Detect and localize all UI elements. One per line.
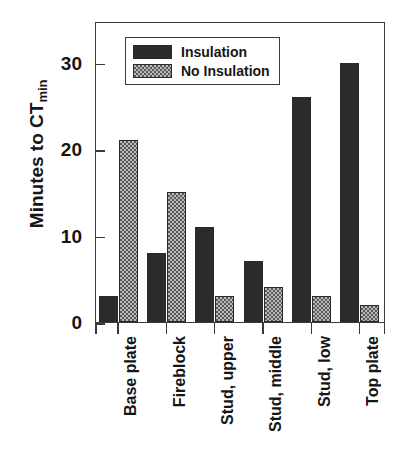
bar bbox=[215, 296, 234, 322]
x-category-label: Fireblock bbox=[172, 336, 188, 454]
plot-area: Insulation No Insulation bbox=[95, 22, 385, 323]
bar bbox=[360, 305, 379, 322]
x-tick-mark bbox=[117, 323, 119, 334]
y-tick-mark bbox=[96, 150, 105, 152]
bar bbox=[167, 192, 186, 322]
x-tick-mark-edge bbox=[95, 323, 97, 334]
x-category-label: Stud, middle bbox=[268, 336, 284, 454]
legend-swatch-no-insulation bbox=[133, 64, 172, 78]
x-tick-mark bbox=[262, 323, 264, 334]
x-category-label: Top plate bbox=[365, 336, 381, 454]
legend-item: Insulation bbox=[133, 43, 270, 60]
y-tick-label: 0 bbox=[42, 313, 82, 332]
legend-item: No Insulation bbox=[133, 62, 270, 79]
bar bbox=[99, 296, 118, 322]
legend-label: Insulation bbox=[181, 45, 247, 59]
bar bbox=[264, 287, 283, 322]
x-tick-mark-edge bbox=[384, 323, 386, 334]
y-tick-mark bbox=[96, 237, 105, 239]
legend-swatch-insulation bbox=[133, 45, 172, 59]
x-axis-category-labels: Base plateFireblockStud, upperStud, midd… bbox=[95, 336, 385, 459]
bar bbox=[244, 261, 263, 322]
x-category-label: Stud, low bbox=[317, 336, 333, 454]
x-category-label: Base plate bbox=[123, 336, 139, 454]
x-axis-tick-marks bbox=[95, 323, 385, 335]
bar bbox=[292, 97, 311, 322]
chart-figure: Minutes to CTmin 0102030 Insulation No I… bbox=[0, 0, 407, 459]
bar bbox=[119, 140, 138, 322]
bar bbox=[147, 253, 166, 322]
y-tick-label: 10 bbox=[42, 227, 82, 246]
x-tick-mark bbox=[166, 323, 168, 334]
x-category-label: Stud, upper bbox=[220, 336, 236, 454]
bar bbox=[195, 227, 214, 322]
y-tick-mark bbox=[96, 64, 105, 66]
x-tick-mark bbox=[311, 323, 313, 334]
y-axis-tick-labels: 0102030 bbox=[38, 0, 82, 459]
y-tick-label: 30 bbox=[42, 54, 82, 73]
chart-legend: Insulation No Insulation bbox=[125, 37, 280, 85]
bar bbox=[312, 296, 331, 322]
x-tick-mark bbox=[214, 323, 216, 334]
y-tick-label: 20 bbox=[42, 140, 82, 159]
legend-label: No Insulation bbox=[181, 64, 270, 78]
x-tick-mark bbox=[359, 323, 361, 334]
bar bbox=[340, 63, 359, 322]
